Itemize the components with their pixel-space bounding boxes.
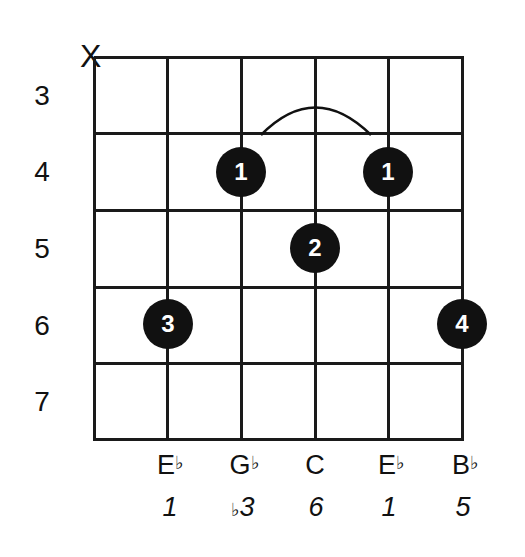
note-label: G♭: [214, 450, 274, 481]
note-label: B♭: [435, 450, 495, 481]
finger-dot: 4: [437, 299, 487, 349]
note-label: C: [285, 450, 345, 481]
finger-dot: 1: [216, 147, 266, 197]
note-label: E♭: [361, 450, 421, 481]
interval-label: 1: [359, 492, 419, 523]
note-label: E♭: [140, 450, 200, 481]
interval-label: 5: [433, 492, 493, 523]
finger-dot: 1: [363, 147, 413, 197]
interval-label: 1: [140, 492, 200, 523]
finger-dot: 2: [290, 223, 340, 273]
interval-label: 6: [286, 492, 346, 523]
finger-dot: 3: [143, 299, 193, 349]
interval-label: ♭3: [213, 492, 273, 523]
